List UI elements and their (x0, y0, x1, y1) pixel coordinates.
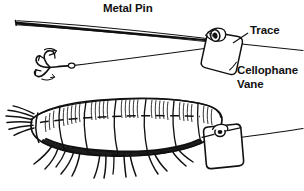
cellophane-vane-bottom (202, 124, 244, 168)
label-cellophane-vane-line1: Cellophane (237, 64, 298, 77)
label-trace: Trace (250, 24, 280, 37)
label-cellophane-vane-line2: Vane (237, 78, 263, 91)
label-metal-pin: Metal Pin (103, 2, 153, 15)
